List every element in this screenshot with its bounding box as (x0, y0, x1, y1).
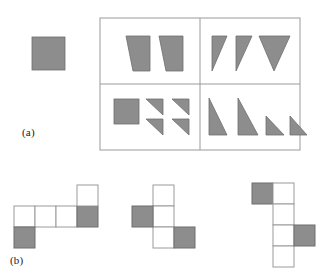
net-cell (252, 183, 273, 204)
net-cell (273, 204, 294, 225)
net-cell (56, 206, 77, 227)
net-cell (273, 183, 294, 204)
panel-b (0, 0, 330, 276)
net-cell (77, 185, 98, 206)
net-cell (153, 185, 174, 206)
net-cell (35, 206, 56, 227)
net-cell (14, 206, 35, 227)
net-cell (153, 206, 174, 227)
net-cell (294, 225, 315, 246)
net-3 (252, 183, 315, 267)
panel-b-label: (b) (10, 254, 23, 266)
net-cell (77, 206, 98, 227)
net-cell (273, 246, 294, 267)
net-cell (174, 227, 195, 248)
net-1 (14, 185, 98, 248)
net-diagrams (14, 183, 315, 267)
net-cell (132, 206, 153, 227)
net-cell (153, 227, 174, 248)
net-2 (132, 185, 195, 248)
net-cell (273, 225, 294, 246)
figure-root: (a) (b) (0, 0, 330, 276)
net-cell (14, 227, 35, 248)
